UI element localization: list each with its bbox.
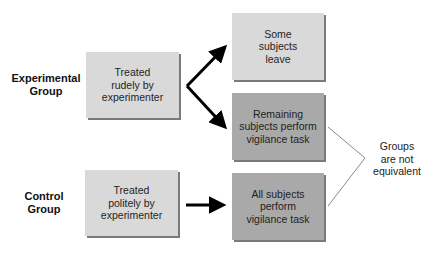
arrow-to-remaining-perform — [187, 86, 224, 126]
connector-layer — [0, 0, 430, 256]
groups-not-equivalent-note: Groups are not equivalent — [366, 140, 428, 178]
arrow-to-some-leave — [187, 48, 224, 86]
bracket-lines — [328, 127, 365, 206]
